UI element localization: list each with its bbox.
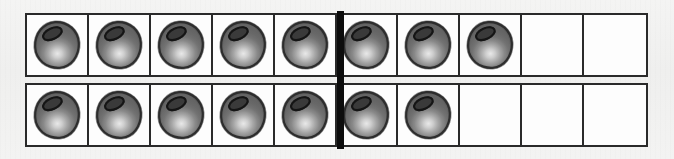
ten-frame-cell-top-2[interactable] <box>89 15 151 75</box>
ten-frame-cell-top-5[interactable] <box>275 15 337 75</box>
ten-frame-cell-bottom-2[interactable] <box>89 85 151 145</box>
ten-frame-cell-top-3[interactable] <box>151 15 213 75</box>
counter-chip-icon <box>342 90 390 140</box>
counter-chip-icon <box>404 20 452 70</box>
counter-hole-icon <box>349 93 374 114</box>
counter-hole-icon <box>102 93 127 114</box>
counter-hole-icon <box>473 23 498 44</box>
ten-frame-cell-top-10[interactable] <box>584 15 646 75</box>
ten-frame-cell-bottom-10[interactable] <box>584 85 646 145</box>
ten-frame-cell-bottom-1[interactable] <box>27 85 89 145</box>
ten-frame-worksheet <box>0 0 674 159</box>
counter-hole-icon <box>40 23 65 44</box>
counter-hole-icon <box>349 23 374 44</box>
counter-hole-icon <box>411 23 436 44</box>
ten-frame-cell-top-7[interactable] <box>398 15 460 75</box>
ten-frame-cell-top-9[interactable] <box>522 15 584 75</box>
counter-chip-icon <box>95 90 143 140</box>
counter-chip-icon <box>33 20 81 70</box>
ten-frame-cell-bottom-3[interactable] <box>151 85 213 145</box>
counter-hole-icon <box>40 93 65 114</box>
counter-chip-icon <box>157 90 205 140</box>
counter-chip-icon <box>218 20 266 70</box>
counter-hole-icon <box>225 93 250 114</box>
counter-chip-icon <box>95 20 143 70</box>
ten-frame-cell-top-8[interactable] <box>460 15 522 75</box>
counter-hole-icon <box>287 23 312 44</box>
ten-frame-cell-top-6[interactable] <box>337 15 399 75</box>
counter-chip-icon <box>280 90 328 140</box>
counter-hole-icon <box>163 23 188 44</box>
ten-frame-cell-top-1[interactable] <box>27 15 89 75</box>
ten-frame-cell-bottom-8[interactable] <box>460 85 522 145</box>
counter-chip-icon <box>280 20 328 70</box>
frame-divider <box>337 11 344 149</box>
ten-frame-cell-top-4[interactable] <box>213 15 275 75</box>
counter-hole-icon <box>225 23 250 44</box>
counter-chip-icon <box>466 20 514 70</box>
ten-frame-cell-bottom-7[interactable] <box>398 85 460 145</box>
counter-hole-icon <box>287 93 312 114</box>
counter-chip-icon <box>157 20 205 70</box>
counter-chip-icon <box>404 90 452 140</box>
counter-chip-icon <box>342 20 390 70</box>
ten-frame-cell-bottom-5[interactable] <box>275 85 337 145</box>
ten-frame-cell-bottom-4[interactable] <box>213 85 275 145</box>
counter-hole-icon <box>411 93 436 114</box>
counter-hole-icon <box>163 93 188 114</box>
counter-chip-icon <box>33 90 81 140</box>
counter-hole-icon <box>102 23 127 44</box>
ten-frame-cell-bottom-6[interactable] <box>337 85 399 145</box>
counter-chip-icon <box>218 90 266 140</box>
ten-frame-cell-bottom-9[interactable] <box>522 85 584 145</box>
